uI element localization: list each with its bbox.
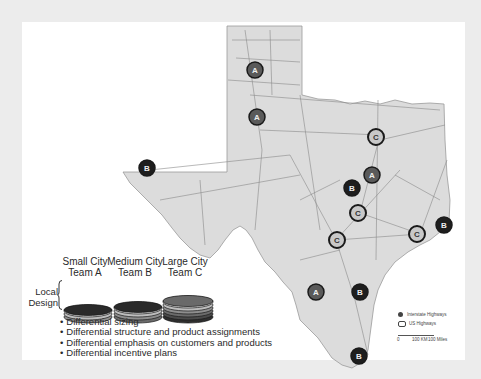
legend-interstate-label: Interstate Highways xyxy=(407,312,447,317)
scale-km: 100 KM xyxy=(412,337,428,342)
marker-letter: B xyxy=(441,221,447,230)
scale-miles: 100 Miles xyxy=(428,337,447,342)
marker-letter: A xyxy=(369,171,375,180)
team-marker-a: A xyxy=(364,167,380,183)
us-shield-icon xyxy=(398,321,406,327)
team-marker-a: A xyxy=(247,62,263,78)
disc-top xyxy=(163,296,213,307)
marker-letter: C xyxy=(414,230,420,239)
scale-zero: 0 xyxy=(397,337,400,342)
legend-us: US Highways xyxy=(398,321,436,327)
team-c-line1: Large City xyxy=(150,256,220,267)
scale-line xyxy=(398,335,434,336)
map-legend: Interstate Highways US Highways 0 100 KM… xyxy=(398,312,468,352)
marker-letter: C xyxy=(373,133,379,142)
local-design-line1: Local xyxy=(24,286,58,297)
team-marker-b: B xyxy=(352,284,368,300)
interstate-shield-icon xyxy=(398,312,403,317)
marker-letter: B xyxy=(357,288,363,297)
team-marker-b: B xyxy=(351,348,367,364)
team-marker-b: B xyxy=(344,180,360,196)
local-design-line2: Design xyxy=(24,297,58,308)
marker-letter: A xyxy=(313,288,319,297)
team-marker-b: B xyxy=(139,160,155,176)
legend-interstate: Interstate Highways xyxy=(398,312,447,317)
marker-letter: A xyxy=(252,66,258,75)
disc-top xyxy=(114,302,162,313)
marker-letter: B xyxy=(356,352,362,361)
marker-letter: C xyxy=(334,236,340,245)
local-design-label: Local Design xyxy=(24,286,58,308)
marker-letter: C xyxy=(355,209,361,218)
team-marker-b: B xyxy=(436,217,452,233)
marker-letter: A xyxy=(254,113,260,122)
team-marker-c: C xyxy=(329,232,345,248)
marker-letter: B xyxy=(349,184,355,193)
bullet-item: Differential incentive plans xyxy=(60,348,272,358)
team-marker-a: A xyxy=(249,109,265,125)
team-marker-a: A xyxy=(308,284,324,300)
team-marker-c: C xyxy=(409,226,425,242)
legend-us-label: US Highways xyxy=(409,321,436,326)
marker-letter: B xyxy=(144,164,150,173)
disc-top xyxy=(64,305,112,316)
team-marker-c: C xyxy=(368,129,384,145)
team-marker-c: C xyxy=(350,205,366,221)
bullet-list: Differential sizing Differential structu… xyxy=(60,317,272,359)
